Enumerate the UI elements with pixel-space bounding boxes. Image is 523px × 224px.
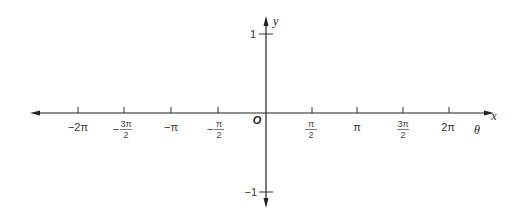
coordinate-plane: −2π − 3π 2 −π − π 2 O π 2 π 3π 2 2π x θ … <box>0 0 523 224</box>
y-axis-label: y <box>272 14 279 28</box>
origin-label: O <box>253 114 262 126</box>
theta-label: θ <box>474 123 480 137</box>
y-tick-label-1: 1 <box>250 28 256 40</box>
svg-text:2: 2 <box>123 130 128 140</box>
tick-label-pi-2: π 2 <box>305 119 317 140</box>
tick-label-neg-3pi-2: − 3π 2 <box>113 119 132 140</box>
y-axis-up-arrow-icon <box>264 16 269 26</box>
svg-text:π: π <box>216 119 222 129</box>
svg-text:3π: 3π <box>397 119 408 129</box>
svg-text:3π: 3π <box>120 119 131 129</box>
svg-text:−: − <box>113 123 119 135</box>
svg-text:2: 2 <box>400 130 405 140</box>
tick-label-pi: π <box>353 121 361 133</box>
x-axis-left-arrow-icon <box>30 111 40 116</box>
x-ticks <box>78 107 449 113</box>
svg-text:−: − <box>207 123 213 135</box>
svg-text:π: π <box>308 119 314 129</box>
tick-label-2pi: 2π <box>441 121 455 133</box>
tick-label-neg-pi-2: − π 2 <box>207 119 224 140</box>
y-axis-down-arrow-icon <box>264 198 269 208</box>
tick-label-3pi-2: 3π 2 <box>397 119 409 140</box>
svg-text:2: 2 <box>216 130 221 140</box>
tick-label-neg-pi: −π <box>164 121 178 133</box>
x-axis-label: x <box>490 109 497 123</box>
y-tick-label-neg1: −1 <box>244 186 257 198</box>
tick-label-neg-2pi: −2π <box>68 121 89 133</box>
svg-text:2: 2 <box>308 130 313 140</box>
